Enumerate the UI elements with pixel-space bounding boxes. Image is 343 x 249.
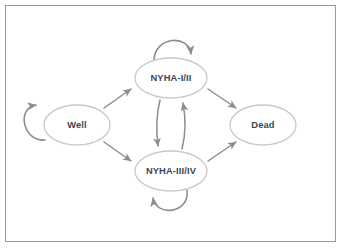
edge-nyha34-to-dead: [208, 142, 236, 161]
state-node-well[interactable]: Well: [44, 105, 110, 145]
state-node-dead[interactable]: Dead: [230, 105, 296, 145]
diagram-canvas: Well NYHA-I/II NYHA-III/IV Dead: [0, 0, 343, 249]
well-self-loop-arrow: [24, 105, 45, 140]
edge-nyha34-to-nyha12: [182, 103, 185, 149]
edge-well-to-nyha34: [104, 142, 131, 161]
nyha12-self-loop-arrow: [154, 40, 191, 60]
state-transition-diagram: Well NYHA-I/II NYHA-III/IV Dead: [0, 0, 343, 249]
nyha12-label: NYHA-I/II: [150, 73, 191, 83]
nyha34-self-loop-arrow: [153, 190, 187, 210]
nyha34-label: NYHA-III/IV: [146, 166, 197, 176]
transition-edge-group: [104, 89, 236, 161]
state-node-nyha34[interactable]: NYHA-III/IV: [135, 151, 207, 191]
edge-nyha12-to-nyha34: [157, 100, 160, 146]
well-label: Well: [67, 120, 87, 130]
edge-nyha12-to-dead: [208, 89, 236, 108]
dead-label: Dead: [251, 120, 275, 130]
edge-well-to-nyha12: [104, 89, 131, 108]
state-node-nyha12[interactable]: NYHA-I/II: [135, 58, 207, 98]
